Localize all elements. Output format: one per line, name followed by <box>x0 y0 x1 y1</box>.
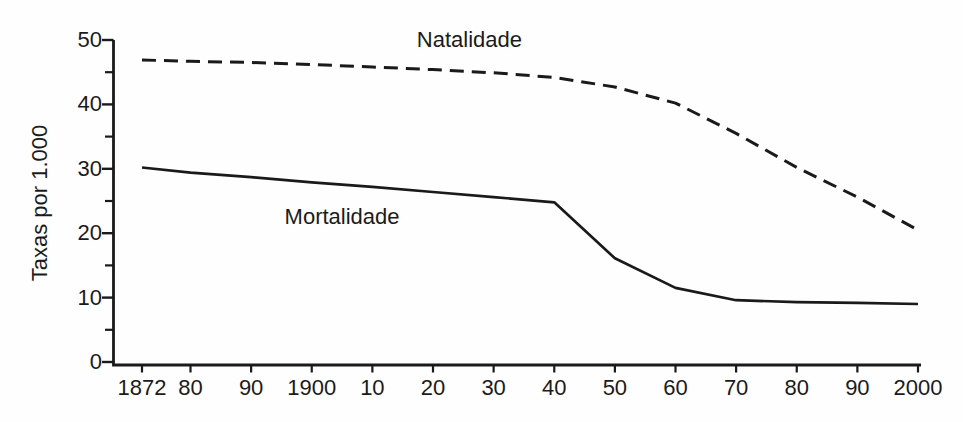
y-tick-label: 40 <box>22 92 102 116</box>
y-tick-label: 20 <box>22 221 102 245</box>
axes-line <box>114 40 922 365</box>
chart: Taxas por 1.000 187280901900102030405060… <box>0 0 963 422</box>
y-tick-label: 10 <box>22 286 102 310</box>
x-tick-label: 2000 <box>878 376 958 400</box>
y-tick-label: 50 <box>22 28 102 52</box>
plot-area <box>0 0 963 422</box>
y-tick-label: 30 <box>22 157 102 181</box>
mortalidade-line <box>142 168 918 305</box>
series-label-mortalidade: Mortalidade <box>242 205 442 229</box>
y-tick-label: 0 <box>22 350 102 374</box>
series-label-natalidade: Natalidade <box>369 28 569 52</box>
